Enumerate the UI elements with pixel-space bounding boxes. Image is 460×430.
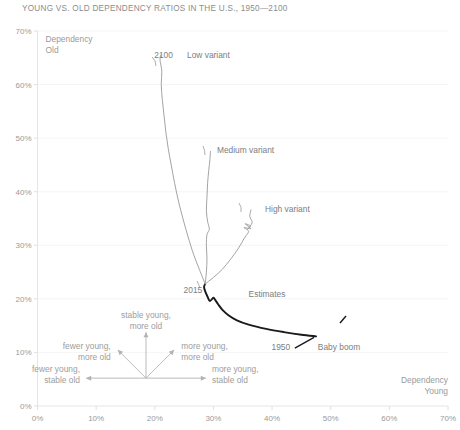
- y-tick-label: 10%: [15, 348, 31, 357]
- series-labels: 195020152100Low variantMedium variantHig…: [154, 50, 360, 352]
- leader-medium-variant: [203, 146, 205, 155]
- compass-arrowhead-right: [201, 376, 206, 381]
- y-tick-label: 50%: [15, 134, 31, 143]
- annotation-high-variant: High variant: [265, 204, 310, 214]
- chart-root: YOUNG VS. OLD DEPENDENCY RATIOS IN THE U…: [0, 0, 460, 430]
- leader-line-1950: [295, 337, 314, 348]
- compass-arrow-up-left: [118, 350, 146, 378]
- point-label-1950: 1950: [272, 342, 291, 352]
- compass-label-line1: stable young,: [121, 310, 171, 320]
- x-tick-label: 10%: [88, 414, 104, 423]
- x-tick-label: 40%: [264, 414, 280, 423]
- compass-label-line2: more old: [130, 321, 163, 331]
- compass-arrow-up-right: [146, 350, 174, 378]
- y-tick-label: 60%: [15, 81, 31, 90]
- leader-high-variant: [239, 203, 241, 212]
- x-tick-label: 70%: [440, 414, 456, 423]
- y-tick-label: 0%: [20, 402, 32, 411]
- compass-label-line2: stable old: [44, 375, 80, 385]
- x-axis-caption-line2: Young: [425, 386, 449, 396]
- annotation-baby-boom: Baby boom: [318, 342, 360, 352]
- annotation-medium-variant: Medium variant: [217, 145, 275, 155]
- y-tick-label: 30%: [15, 241, 31, 250]
- compass-label-line2: more old: [78, 352, 111, 362]
- point-label-2100: 2100: [154, 50, 173, 60]
- compass-label-line1: more young,: [181, 341, 228, 351]
- compass-annotations: stable young,more oldfewer young,more ol…: [32, 310, 259, 385]
- y-axis-caption-line1: Dependency: [46, 34, 94, 44]
- x-tick-label: 60%: [381, 414, 397, 423]
- compass-label-line1: fewer young,: [32, 364, 80, 374]
- compass-label-line2: more old: [181, 352, 214, 362]
- y-tick-label: 40%: [15, 188, 31, 197]
- scatter-line-chart: 0%10%20%30%40%50%60%70%0%10%20%30%40%50%…: [0, 0, 460, 430]
- series-curve-low-variant: [160, 55, 205, 284]
- compass-arrowhead-up: [143, 332, 148, 337]
- gridlines: [38, 31, 449, 352]
- annotation-low-variant: Low variant: [187, 50, 231, 60]
- compass-arrowhead-left: [86, 376, 91, 381]
- compass-label-line2: stable old: [212, 375, 248, 385]
- leader-lines: [152, 57, 346, 348]
- series-curve-medium-variant: [205, 152, 210, 284]
- x-tick-label: 20%: [147, 414, 163, 423]
- annotation-estimates: Estimates: [249, 289, 286, 299]
- x-tick-label: 0%: [32, 414, 44, 423]
- x-axis-caption-line1: Dependency: [401, 375, 449, 385]
- x-tick-label: 30%: [205, 414, 221, 423]
- series-curve-high-variant: [205, 210, 252, 284]
- point-label-2015: 2015: [184, 285, 203, 295]
- compass-label-line1: fewer young,: [63, 341, 111, 351]
- x-tick-label: 50%: [323, 414, 339, 423]
- leader-baby-boom: [340, 316, 346, 323]
- compass-label-line1: more young,: [212, 364, 259, 374]
- y-axis-caption-line2: Old: [46, 45, 59, 55]
- y-tick-label: 70%: [15, 27, 31, 36]
- y-tick-label: 20%: [15, 295, 31, 304]
